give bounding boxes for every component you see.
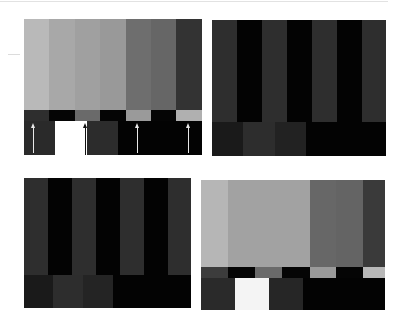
top-bars-cell	[144, 178, 168, 275]
top-bars-cell	[336, 180, 363, 267]
pluge-row-cell	[269, 278, 303, 310]
pluge-row-cell	[53, 275, 83, 308]
top-bars-cell	[255, 180, 282, 267]
pluge-row	[201, 278, 385, 310]
test-pattern-panel-4	[201, 180, 385, 310]
top-bars	[201, 180, 385, 267]
margin-mark	[8, 54, 20, 55]
castellation-strip-cell	[126, 110, 151, 121]
castellation-strip	[24, 110, 202, 121]
top-bars-cell	[49, 19, 75, 110]
castellation-strip-cell	[363, 267, 385, 278]
pluge-row-cell	[243, 122, 275, 156]
top-bars	[24, 178, 191, 275]
top-bars-cell	[212, 20, 237, 122]
castellation-strip-cell	[24, 110, 49, 121]
top-bars-cell	[337, 20, 362, 122]
castellation-strip-cell	[100, 110, 126, 121]
top-bars-cell	[282, 180, 310, 267]
castellation-strip-cell	[49, 110, 75, 121]
top-bars-cell	[312, 20, 337, 122]
test-pattern-panel-3	[24, 178, 191, 308]
up-arrow-icon	[33, 123, 34, 153]
castellation-strip-cell	[176, 110, 202, 121]
castellation-strip-cell	[151, 110, 176, 121]
top-bars-cell	[168, 178, 191, 275]
top-bars-cell	[237, 20, 262, 122]
pluge-row-cell	[212, 122, 243, 156]
pluge-row-cell	[83, 275, 113, 308]
test-pattern-panel-2	[212, 20, 386, 156]
pluge-row-cell	[275, 122, 306, 156]
top-bars-cell	[75, 19, 100, 110]
pluge-row	[212, 122, 386, 156]
test-pattern-panel-1	[24, 19, 202, 155]
top-bars-cell	[151, 19, 176, 110]
top-bars-cell	[72, 178, 96, 275]
top-bars-cell	[362, 20, 386, 122]
top-bars-cell	[24, 19, 49, 110]
castellation-strip	[201, 267, 385, 278]
pluge-row-cell	[201, 278, 235, 310]
up-arrow-icon	[188, 123, 189, 153]
castellation-strip-cell	[310, 267, 336, 278]
top-bars-cell	[100, 19, 126, 110]
top-bars-cell	[228, 180, 255, 267]
top-bars-cell	[126, 19, 151, 110]
castellation-strip-cell	[228, 267, 255, 278]
pluge-row-cell	[306, 122, 386, 156]
pluge-row-cell	[24, 121, 55, 155]
castellation-strip-cell	[282, 267, 310, 278]
up-arrow-icon	[137, 123, 138, 153]
pluge-row-cell	[303, 278, 385, 310]
top-bars-cell	[310, 180, 336, 267]
castellation-strip-cell	[201, 267, 228, 278]
top-bars-cell	[48, 178, 72, 275]
castellation-strip-cell	[255, 267, 282, 278]
pluge-row-cell	[235, 278, 269, 310]
pluge-row	[24, 121, 202, 155]
top-bars-cell	[176, 19, 202, 110]
top-bars	[24, 19, 202, 110]
top-bars-cell	[262, 20, 287, 122]
page-top-edge-line	[0, 1, 388, 2]
top-bars-cell	[201, 180, 228, 267]
top-bars-cell	[287, 20, 312, 122]
top-bars	[212, 20, 386, 122]
top-bars-cell	[96, 178, 120, 275]
top-bars-cell	[120, 178, 144, 275]
top-bars-cell	[24, 178, 48, 275]
castellation-strip-cell	[75, 110, 100, 121]
top-bars-cell	[363, 180, 385, 267]
pluge-row	[24, 275, 191, 308]
castellation-strip-cell	[336, 267, 363, 278]
pluge-row-cell	[24, 275, 53, 308]
pluge-row-cell	[113, 275, 191, 308]
up-arrow-icon	[85, 123, 86, 155]
pluge-row-cell	[87, 121, 118, 155]
